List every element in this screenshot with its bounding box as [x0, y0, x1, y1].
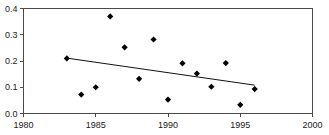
- data-point: [150, 36, 156, 42]
- y-axis-ticks: [20, 9, 24, 114]
- data-point: [107, 13, 113, 19]
- x-tick-label: 1980: [13, 120, 33, 130]
- data-point: [237, 102, 243, 108]
- y-tick-label: 0.1: [5, 82, 18, 92]
- data-point: [165, 96, 171, 102]
- data-point: [136, 76, 142, 82]
- x-tick-label: 2000: [302, 120, 322, 130]
- scatter-plot: 0.00.10.20.30.4 19801985199019952000: [0, 0, 329, 135]
- y-axis-labels: 0.00.10.20.30.4: [5, 4, 18, 119]
- chart-figure: · · · 0.00.10.20.30.4 198019851990199520…: [0, 0, 329, 135]
- data-point: [78, 92, 84, 98]
- data-point: [93, 84, 99, 90]
- y-tick-label: 0.0: [5, 109, 18, 119]
- data-point: [252, 86, 258, 92]
- data-points: [64, 13, 258, 108]
- x-tick-label: 1985: [86, 120, 106, 130]
- y-tick-label: 0.2: [5, 56, 18, 66]
- x-axis-ticks: [24, 114, 313, 118]
- y-tick-label: 0.3: [5, 30, 18, 40]
- data-point: [64, 55, 70, 61]
- data-point: [122, 44, 128, 50]
- data-point: [179, 60, 185, 66]
- data-point: [223, 60, 229, 66]
- data-point: [208, 84, 214, 90]
- y-tick-label: 0.4: [5, 4, 18, 14]
- x-tick-label: 1995: [230, 120, 250, 130]
- data-point: [194, 71, 200, 77]
- x-axis-labels: 19801985199019952000: [13, 120, 322, 130]
- x-tick-label: 1990: [158, 120, 178, 130]
